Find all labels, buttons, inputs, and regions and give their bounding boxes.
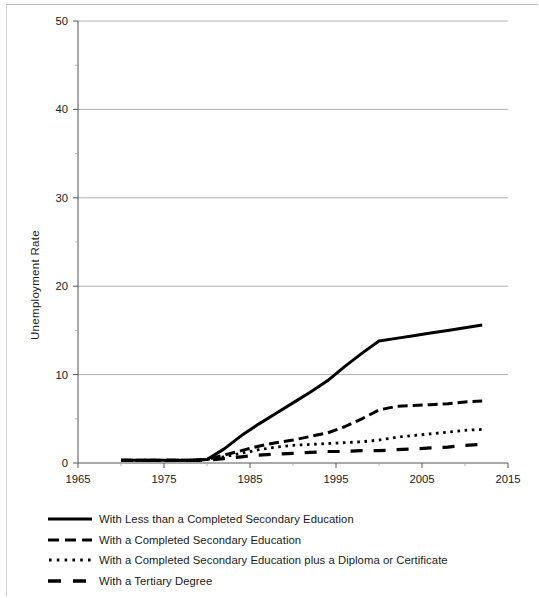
svg-text:2005: 2005 — [409, 473, 434, 485]
legend-label-completed-secondary: With a Completed Secondary Education — [99, 534, 301, 546]
legend-swatch-long-dashed-line-icon — [48, 576, 92, 586]
svg-text:40: 40 — [55, 103, 68, 115]
svg-text:1995: 1995 — [323, 473, 348, 485]
legend-swatch-dashed-line-icon — [48, 535, 92, 545]
axis-lines — [78, 21, 508, 463]
legend-item-completed-secondary: With a Completed Secondary Education — [48, 530, 528, 551]
data-series-group — [121, 325, 482, 460]
legend-label-tertiary-degree: With a Tertiary Degree — [99, 575, 212, 587]
series-line — [121, 444, 482, 460]
chart-legend: With Less than a Completed Secondary Edu… — [48, 509, 528, 591]
chart-plot-area: 01020304050 196519751985199520052015 — [0, 0, 539, 500]
series-line — [121, 325, 482, 460]
svg-text:20: 20 — [55, 280, 68, 292]
svg-text:2015: 2015 — [495, 473, 520, 485]
legend-item-tertiary-degree: With a Tertiary Degree — [48, 571, 528, 592]
legend-label-secondary-plus-diploma: With a Completed Secondary Education plu… — [99, 554, 448, 566]
svg-text:0: 0 — [62, 457, 68, 469]
legend-swatch-dotted-line-icon — [48, 555, 92, 565]
gridlines — [78, 21, 508, 375]
legend-label-less-than-secondary: With Less than a Completed Secondary Edu… — [99, 513, 354, 525]
series-line — [121, 401, 482, 460]
x-axis-ticks — [78, 463, 508, 468]
chart-figure: 01020304050 196519751985199520052015 Une… — [0, 0, 539, 598]
series-line — [121, 429, 482, 460]
svg-text:30: 30 — [55, 192, 68, 204]
y-axis-tick-labels: 01020304050 — [55, 15, 68, 469]
legend-item-secondary-plus-diploma: With a Completed Secondary Education plu… — [48, 550, 528, 571]
x-axis-tick-labels: 196519751985199520052015 — [65, 473, 520, 485]
svg-text:50: 50 — [55, 15, 68, 27]
y-axis-ticks — [73, 21, 78, 463]
legend-item-less-than-secondary: With Less than a Completed Secondary Edu… — [48, 509, 528, 530]
svg-text:1965: 1965 — [65, 473, 90, 485]
legend-swatch-solid-line-icon — [48, 514, 92, 524]
svg-text:10: 10 — [55, 369, 68, 381]
svg-text:1985: 1985 — [237, 473, 262, 485]
y-axis-title: Unemployment Rate — [29, 140, 45, 340]
svg-text:1975: 1975 — [151, 473, 176, 485]
